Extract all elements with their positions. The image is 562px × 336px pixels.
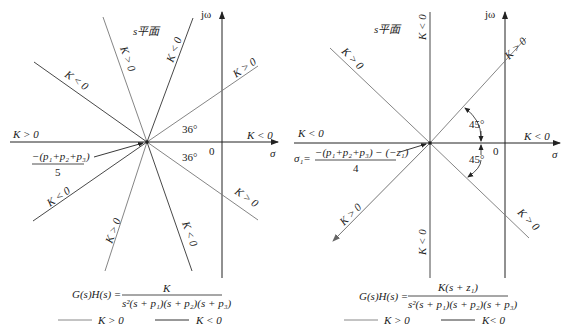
right-angle-lower: 45° bbox=[469, 153, 484, 165]
left-tf-numerator: K bbox=[162, 282, 171, 294]
right-centroid-denominator: 4 bbox=[353, 162, 359, 174]
right-figure: s平面 jω σ 0 45° 45° K < 0 K < 0 K < 0 K <… bbox=[294, 8, 560, 326]
left-centroid-denominator: 5 bbox=[55, 166, 61, 178]
left-legend-kpos-label: K > 0 bbox=[97, 314, 124, 326]
right-angle-upper: 45° bbox=[469, 118, 484, 130]
left-label-lower-left: K < 0 bbox=[43, 184, 72, 209]
root-locus-asymptote-diagram: s平面 jω σ 0 36° 36° K > 0 K < 0 K < 0 K >… bbox=[0, 0, 562, 336]
left-centroid-numerator: −(p₁+p₂+p₃) bbox=[32, 150, 90, 163]
right-tf-numerator: K(s + z₁) bbox=[437, 281, 478, 294]
left-figure: s平面 jω σ 0 36° 36° K > 0 K < 0 K < 0 K >… bbox=[10, 8, 278, 326]
left-imag-axis-label: jω bbox=[200, 8, 211, 20]
right-asymptote-upper-left bbox=[330, 48, 430, 143]
left-angle-lower: 36° bbox=[182, 151, 197, 163]
left-angle-upper: 36° bbox=[182, 123, 197, 135]
left-asymptote-lower-right bbox=[147, 142, 258, 220]
right-imag-axis-label: jω bbox=[484, 8, 495, 20]
left-label-lower-right: K > 0 bbox=[232, 184, 261, 209]
right-real-axis-label: σ bbox=[552, 148, 558, 160]
right-label-vertical-down: K < 0 bbox=[416, 229, 428, 256]
left-asymptote-steep-lower-left bbox=[105, 142, 147, 271]
right-centroid-numerator: −(p₁+p₂+p₃) − (−z₁) bbox=[315, 146, 409, 159]
left-tf-denominator: s²(s + p₁)(s + p₂)(s + p₃) bbox=[122, 297, 231, 310]
right-label-real-left: K < 0 bbox=[297, 127, 324, 139]
left-label-upper-left: K < 0 bbox=[62, 67, 91, 92]
left-label-upper-right: K > 0 bbox=[229, 55, 258, 80]
left-asymptote-upper-left bbox=[34, 62, 147, 142]
right-legend-kpos-label: K > 0 bbox=[383, 314, 410, 326]
right-tf-denominator: s²(s + p₁)(s + p₂)(s + p₃) bbox=[408, 298, 517, 311]
left-plane-label: s平面 bbox=[133, 25, 161, 37]
right-legend-kneg-label: K< 0 bbox=[481, 314, 506, 326]
left-label-steep-lower-left: K > 0 bbox=[102, 216, 123, 246]
right-origin-label: 0 bbox=[493, 145, 499, 157]
right-tf-lhs: G(s)H(s) = bbox=[359, 290, 408, 303]
left-asymptote-upper-right bbox=[147, 66, 258, 142]
right-centroid-point bbox=[428, 141, 432, 145]
right-centroid-prefix: σ₁= bbox=[294, 152, 311, 164]
right-label-vertical-up: K < 0 bbox=[416, 14, 428, 41]
left-legend-kneg-label: K < 0 bbox=[195, 314, 222, 326]
right-label-upper-left: K > 0 bbox=[339, 44, 367, 72]
left-label-real-right: K < 0 bbox=[246, 129, 273, 141]
right-plane-label: s平面 bbox=[374, 23, 402, 35]
right-label-real-right: K < 0 bbox=[523, 130, 550, 142]
left-real-axis-label: σ bbox=[270, 147, 276, 159]
left-origin-label: 0 bbox=[209, 145, 215, 157]
left-centroid-point bbox=[145, 140, 149, 144]
left-label-real-left: K > 0 bbox=[12, 128, 39, 140]
left-tf-lhs: G(s)H(s) = bbox=[72, 288, 121, 301]
